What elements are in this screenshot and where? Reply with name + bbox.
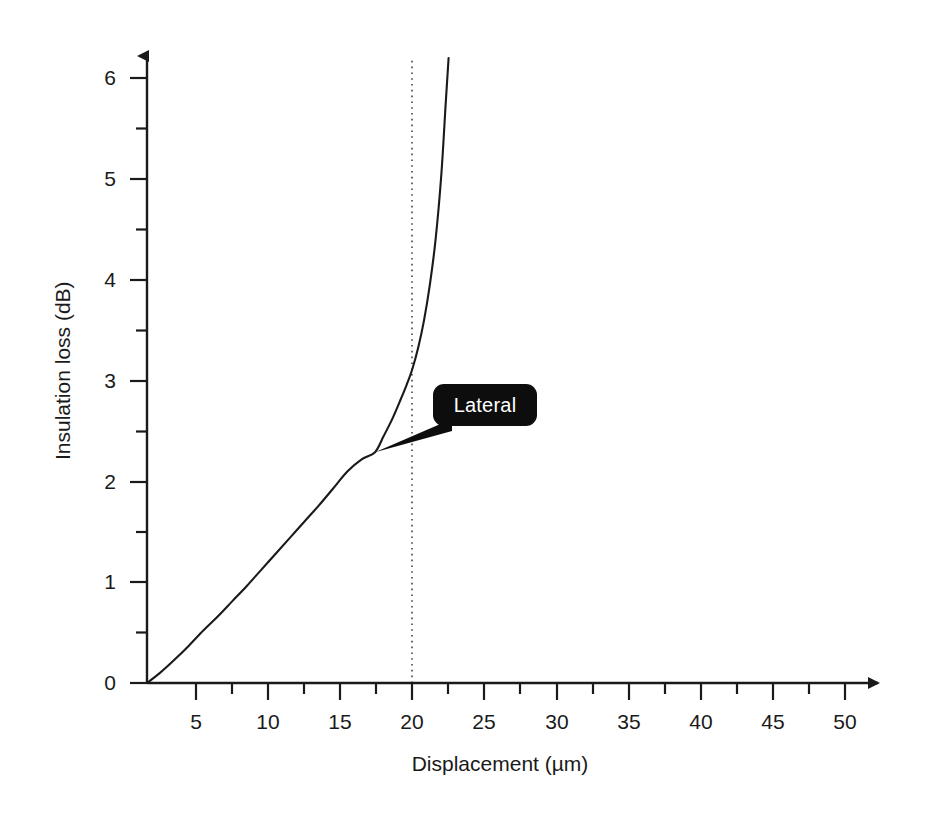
y-tick-label-0: 0 [88, 672, 116, 693]
x-tick-label-45: 45 [753, 711, 793, 732]
y-tick-label-4: 4 [88, 269, 116, 290]
x-tick-label-25: 25 [464, 711, 504, 732]
x-tick-label-5: 5 [176, 711, 216, 732]
x-tick-label-40: 40 [681, 711, 721, 732]
x-tick-label-30: 30 [537, 711, 577, 732]
y-axis-title: Insulation loss (dB) [52, 281, 73, 460]
chart-figure: 0 1 2 3 4 5 6 5 10 15 20 25 30 35 40 45 … [0, 0, 935, 821]
y-tick-label-1: 1 [88, 571, 116, 592]
x-tick-label-15: 15 [320, 711, 360, 732]
data-series-line [147, 58, 449, 683]
lateral-callout: Lateral [433, 384, 537, 426]
x-minor-ticks [232, 683, 809, 694]
x-tick-label-20: 20 [392, 711, 432, 732]
x-axis-title: Displacement (µm) [370, 753, 630, 774]
y-major-ticks [130, 78, 147, 683]
x-tick-label-10: 10 [248, 711, 288, 732]
x-tick-label-50: 50 [825, 711, 865, 732]
x-tick-label-35: 35 [609, 711, 649, 732]
y-tick-label-2: 2 [88, 471, 116, 492]
y-tick-label-5: 5 [88, 168, 116, 189]
lateral-callout-label: Lateral [454, 395, 517, 415]
y-tick-label-3: 3 [88, 370, 116, 391]
y-tick-label-6: 6 [88, 67, 116, 88]
